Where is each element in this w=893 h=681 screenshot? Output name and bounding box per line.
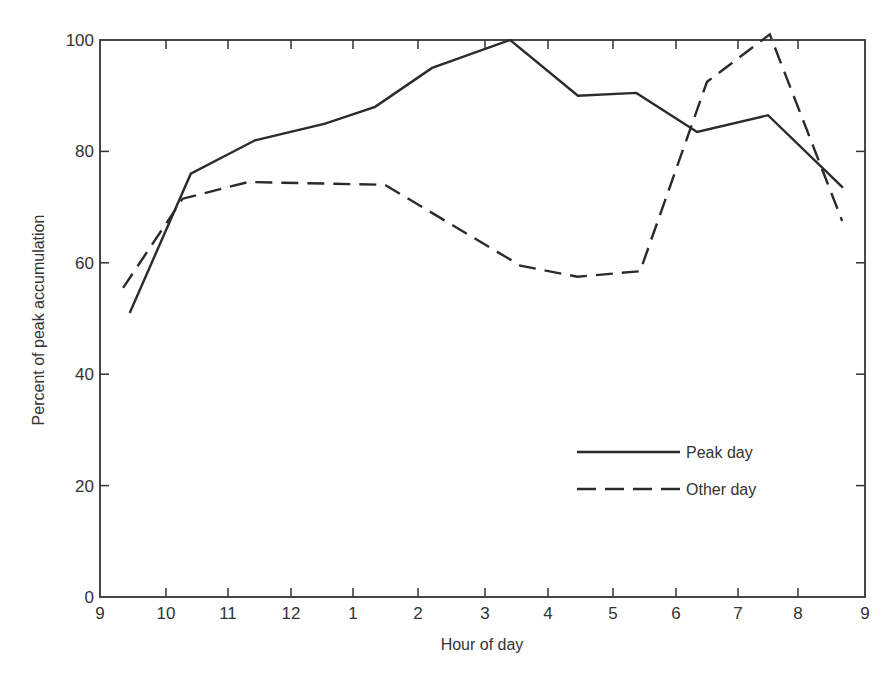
top-axis-ticks [166,40,798,49]
y-axis-title: Percent of peak accumulation [30,215,47,426]
x-tick-label: 6 [671,604,680,623]
x-tick-label: 7 [733,604,742,623]
x-tick-label: 4 [543,604,552,623]
x-tick-label: 9 [95,604,104,623]
x-axis-title: Hour of day [441,636,524,653]
y-tick-label: 100 [66,31,94,50]
x-tick-label: 12 [282,604,301,623]
y-axis: 020406080100 [66,31,109,607]
x-tick-label: 5 [608,604,617,623]
x-tick-label: 2 [413,604,422,623]
plot-frame [100,40,865,597]
right-axis-ticks [856,151,865,485]
legend-item-peak-day: Peak day [577,444,753,461]
series-layer [123,34,843,313]
plot-border [100,40,865,597]
legend: Peak day Other day [577,444,756,498]
legend-item-other-day: Other day [577,481,756,498]
x-tick-label: 10 [157,604,176,623]
x-axis: 9101112123456789 [95,588,869,623]
y-tick-label: 20 [75,477,94,496]
x-tick-label: 8 [793,604,802,623]
line-chart: 9101112123456789 020406080100 Hour of da… [0,0,893,681]
x-tick-label: 11 [219,604,237,623]
y-tick-label: 60 [75,254,94,273]
x-tick-label: 1 [348,604,357,623]
x-tick-label: 3 [480,604,489,623]
series-line-other-day [123,34,842,288]
series-line-peak-day [130,40,843,313]
x-tick-label: 9 [860,604,869,623]
legend-label-peak-day: Peak day [686,444,753,461]
y-tick-label: 80 [75,142,94,161]
y-tick-label: 40 [75,365,94,384]
legend-label-other-day: Other day [686,481,756,498]
y-tick-label: 0 [85,588,94,607]
